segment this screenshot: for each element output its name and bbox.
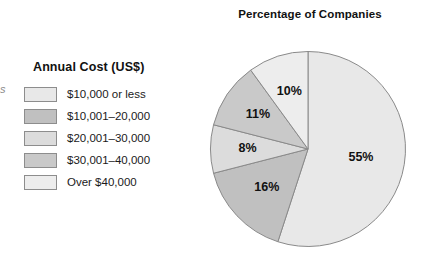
legend-swatch-tier-2 [24, 109, 57, 124]
pie-slice-label: 11% [246, 107, 270, 121]
legend-item[interactable]: $10,001–20,000 [24, 105, 194, 127]
pie-slice-label: 8% [239, 141, 257, 155]
pie-chart: 55%16%8%11%10% [209, 50, 407, 248]
legend-label-tier-3: $20,001–30,000 [67, 131, 150, 146]
legend-item[interactable]: $10,000 or less [24, 83, 194, 105]
legend-title: Annual Cost (US$) [33, 60, 194, 74]
pie-svg: 55%16%8%11%10% [209, 50, 407, 248]
chart-title: Percentage of Companies [195, 8, 425, 20]
legend-label-tier-1: $10,000 or less [67, 87, 146, 102]
legend-item[interactable]: $30,001–40,000 [24, 149, 194, 171]
legend-swatch-tier-4 [24, 153, 57, 168]
legend-label-tier-5: Over $40,000 [67, 175, 137, 190]
chart-area: Percentage of Companies 55%16%8%11%10% [195, 0, 425, 254]
legend-label-tier-4: $30,001–40,000 [67, 153, 150, 168]
pie-slice-label: 10% [277, 84, 302, 98]
legend: Annual Cost (US$) $10,000 or less $10,00… [24, 60, 194, 193]
legend-swatch-tier-1 [24, 87, 57, 102]
legend-item[interactable]: $20,001–30,000 [24, 127, 194, 149]
legend-swatch-tier-3 [24, 131, 57, 146]
cropped-text-fragment: s [0, 82, 8, 96]
legend-item[interactable]: Over $40,000 [24, 171, 194, 193]
pie-slice-label: 55% [348, 150, 373, 164]
legend-swatch-tier-5 [24, 175, 57, 190]
legend-label-tier-2: $10,001–20,000 [67, 109, 150, 124]
pie-slice-label: 16% [254, 180, 279, 194]
